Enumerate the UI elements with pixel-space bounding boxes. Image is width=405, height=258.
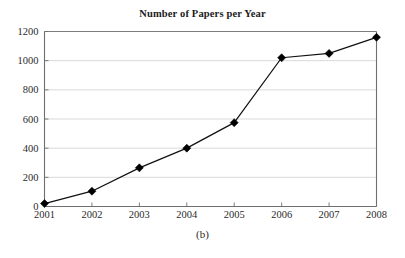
x-tick-label: 2006 xyxy=(271,209,292,220)
y-tick-label: 400 xyxy=(23,143,39,154)
y-axis-tick-labels: 020040060080010001200 xyxy=(18,26,39,212)
y-tick-label: 600 xyxy=(23,114,39,125)
line-chart-plot: 020040060080010001200 200120022003200420… xyxy=(0,0,405,258)
x-tick-label: 2003 xyxy=(129,209,150,220)
x-tick-label: 2001 xyxy=(34,209,55,220)
y-tick-label: 200 xyxy=(23,172,39,183)
x-tick-label: 2007 xyxy=(319,209,340,220)
x-tick-label: 2002 xyxy=(81,209,102,220)
y-tick-marks-group xyxy=(45,32,49,207)
x-axis-tick-labels: 20012002200320042005200620072008 xyxy=(34,209,387,220)
x-tick-label: 2008 xyxy=(366,209,387,220)
x-tick-marks-group xyxy=(45,203,377,207)
data-series-line xyxy=(45,37,377,203)
chart-figure: Number of Papers per Year 02004006008001… xyxy=(0,0,405,258)
x-tick-label: 2005 xyxy=(224,209,245,220)
data-series-markers xyxy=(41,33,381,207)
data-point-marker xyxy=(325,49,333,57)
gridlines-group xyxy=(45,61,377,178)
figure-caption: (b) xyxy=(0,228,405,240)
data-point-marker xyxy=(183,144,191,152)
series-polyline xyxy=(45,37,377,203)
data-point-marker xyxy=(135,164,143,172)
data-point-marker xyxy=(88,187,96,195)
y-tick-label: 1000 xyxy=(18,55,39,66)
y-tick-label: 1200 xyxy=(18,26,39,37)
y-tick-label: 800 xyxy=(23,84,39,95)
data-point-marker xyxy=(373,33,381,41)
x-tick-label: 2004 xyxy=(176,209,198,220)
